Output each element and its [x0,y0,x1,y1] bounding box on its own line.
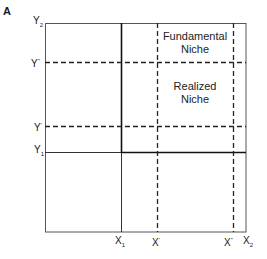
x1-label: X1 [115,236,125,250]
y-prime-label: Y' [34,120,42,133]
x-double-prime-label: X'' [224,235,233,248]
x2-label: X2 [243,236,253,250]
fundamental-line1: Fundamental [160,30,230,43]
realized-line2: Niche [160,93,230,106]
y1-label: Y1 [34,145,44,159]
realized-niche-label: Realized Niche [160,80,230,106]
x-prime-label: X' [152,235,160,248]
y2-label: Y2 [33,16,43,30]
y-double-prime-label: Y'' [31,56,40,69]
realized-line1: Realized [160,80,230,93]
fundamental-line2: Niche [160,43,230,56]
fundamental-niche-label: Fundamental Niche [160,30,230,56]
